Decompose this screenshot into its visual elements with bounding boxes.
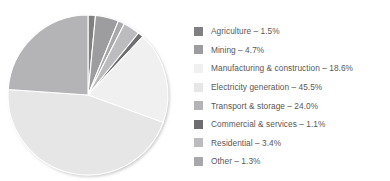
legend-item-agriculture[interactable]: Agriculture – 1.5% xyxy=(194,22,390,41)
legend-item-residential[interactable]: Residential – 3.4% xyxy=(194,134,390,153)
pie-chart-figure: Agriculture – 1.5%Mining – 4.7%Manufactu… xyxy=(0,0,390,181)
legend-label-mining: Mining – 4.7% xyxy=(211,46,264,54)
legend-label-agriculture: Agriculture – 1.5% xyxy=(211,27,280,35)
legend-label-commercial-services: Commercial & services – 1.1% xyxy=(211,120,325,128)
legend-label-other: Other – 1.3% xyxy=(211,157,261,165)
legend-swatch-mining xyxy=(194,45,203,54)
legend-swatch-other xyxy=(194,157,203,166)
legend-swatch-electricity-generation xyxy=(194,83,203,92)
legend-label-manufacturing-construction: Manufacturing & construction – 18.6% xyxy=(211,64,353,72)
legend-label-electricity-generation: Electricity generation – 45.5% xyxy=(211,83,322,91)
pie-slice-4[interactable] xyxy=(8,15,88,95)
pie-chart-plot-area xyxy=(0,0,190,181)
legend-item-transport-storage[interactable]: Transport & storage – 24.0% xyxy=(194,96,390,115)
legend: Agriculture – 1.5%Mining – 4.7%Manufactu… xyxy=(194,22,390,171)
pie-chart-svg xyxy=(0,0,190,181)
legend-label-residential: Residential – 3.4% xyxy=(211,139,281,147)
legend-item-electricity-generation[interactable]: Electricity generation – 45.5% xyxy=(194,78,390,97)
pie-slices-group xyxy=(8,15,168,175)
legend-swatch-commercial-services xyxy=(194,120,203,129)
legend-swatch-transport-storage xyxy=(194,101,203,110)
legend-item-other[interactable]: Other – 1.3% xyxy=(194,152,390,171)
legend-item-manufacturing-construction[interactable]: Manufacturing & construction – 18.6% xyxy=(194,59,390,78)
legend-swatch-manufacturing-construction xyxy=(194,64,203,73)
legend-swatch-residential xyxy=(194,138,203,147)
legend-item-commercial-services[interactable]: Commercial & services – 1.1% xyxy=(194,115,390,134)
legend-swatch-agriculture xyxy=(194,27,203,36)
legend-item-mining[interactable]: Mining – 4.7% xyxy=(194,41,390,60)
legend-label-transport-storage: Transport & storage – 24.0% xyxy=(211,102,318,110)
